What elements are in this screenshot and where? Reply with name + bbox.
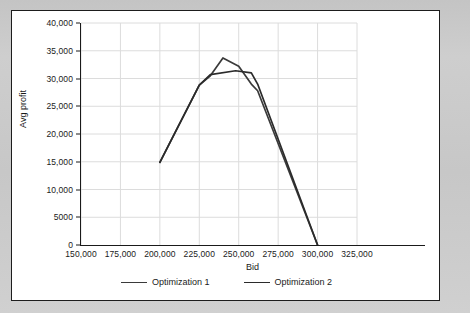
y-tick-mark: [76, 217, 80, 218]
chart-legend: Optimization 1 Optimization 2: [12, 277, 441, 287]
series-lines: [81, 23, 357, 245]
y-tick-mark: [76, 106, 80, 107]
y-tick-mark: [76, 245, 80, 246]
y-axis-title: Avg profit: [18, 49, 28, 169]
y-tick-mark: [76, 78, 80, 79]
chart-panel: 0500010,00015,00020,00025,00030,00035,00…: [11, 10, 440, 301]
y-axis-line: [80, 23, 81, 246]
legend-item-optimization-1[interactable]: Optimization 1: [121, 277, 210, 287]
y-tick-mark: [76, 189, 80, 190]
x-tick-label: 325,000: [329, 249, 385, 259]
y-tick-label: 40,000: [15, 18, 73, 28]
legend-line-icon-series-1: [121, 282, 147, 283]
plot-area: [81, 23, 357, 245]
x-axis-line: [80, 245, 425, 246]
y-tick-label: 5000: [15, 212, 73, 222]
series-line-2: [160, 71, 318, 245]
legend-label-series-2: Optimization 2: [275, 277, 333, 287]
y-tick-mark: [76, 134, 80, 135]
y-tick-mark: [76, 50, 80, 51]
y-tick-mark: [76, 161, 80, 162]
legend-line-icon-series-2: [244, 282, 270, 283]
legend-label-series-1: Optimization 1: [152, 277, 210, 287]
series-line-1: [160, 58, 318, 245]
x-axis-title: Bid: [80, 262, 425, 272]
y-tick-mark: [76, 23, 80, 24]
legend-item-optimization-2[interactable]: Optimization 2: [244, 277, 333, 287]
y-tick-label: 10,000: [15, 185, 73, 195]
